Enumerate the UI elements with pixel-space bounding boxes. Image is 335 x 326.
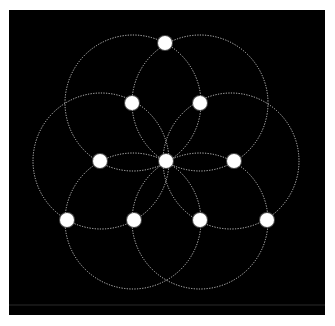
node-dot-6 xyxy=(227,154,241,168)
node-dot-3 xyxy=(193,96,207,110)
node-dot-8 xyxy=(127,213,141,227)
node-dot-1 xyxy=(158,36,172,50)
diagram-frame xyxy=(0,0,335,326)
node-dot-2 xyxy=(125,96,139,110)
flower-pattern-diagram xyxy=(0,0,335,326)
node-dot-10 xyxy=(260,213,274,227)
node-dot-4 xyxy=(93,154,107,168)
node-dot-5 xyxy=(159,154,173,168)
node-dot-9 xyxy=(193,213,207,227)
node-dot-7 xyxy=(60,213,74,227)
